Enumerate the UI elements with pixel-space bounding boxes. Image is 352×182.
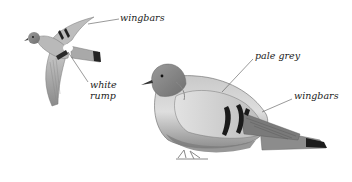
label-white-rump-line2: rump <box>90 90 116 101</box>
label-wingbars-perched: wingbars <box>294 90 339 101</box>
perched-pigeon <box>141 64 327 159</box>
pointer-wingbars-flying <box>88 19 119 24</box>
label-pale-grey: pale grey <box>255 50 300 61</box>
pointer-wingbars-perched <box>262 99 292 112</box>
label-wingbars-flying: wingbars <box>120 12 165 23</box>
label-white-rump-line1: white <box>90 79 117 90</box>
pointer-pale-grey <box>222 59 253 92</box>
